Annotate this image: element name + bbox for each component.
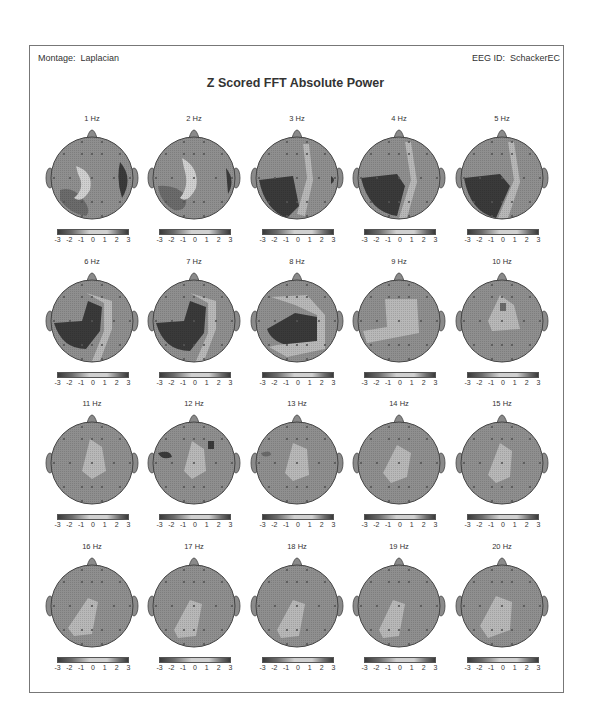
colorbar-ticks: -3-2-10123 — [462, 664, 544, 671]
colorbar-tick-label: 0 — [189, 236, 200, 243]
colorbar-tick-label: -3 — [359, 521, 370, 528]
colorbar-tick-label: 3 — [328, 664, 339, 671]
colorbar-tick-label: -3 — [257, 236, 268, 243]
head-topomap-icon — [247, 265, 347, 371]
colorbar-tick-label: -2 — [474, 236, 485, 243]
colorbar-tick-label: 2 — [521, 379, 532, 386]
colorbar-tick-label: 1 — [304, 521, 315, 528]
colorbar-tick-label: 2 — [213, 379, 224, 386]
colorbar-ticks: -3-2-10123 — [154, 521, 236, 528]
colorbar — [467, 229, 539, 235]
colorbar-ticks: -3-2-10123 — [462, 521, 544, 528]
colorbar — [364, 657, 436, 663]
colorbar-tick-label: 3 — [123, 379, 134, 386]
colorbar-tick-label: -2 — [371, 379, 382, 386]
head-topomap-icon — [349, 265, 449, 371]
colorbar — [364, 372, 436, 378]
topomap-4: 4 Hz-3-2-10123 — [349, 114, 449, 254]
colorbar-tick-label: 1 — [509, 521, 520, 528]
colorbar-ticks: -3-2-10123 — [359, 521, 441, 528]
colorbar-tick-label: -2 — [371, 521, 382, 528]
colorbar-tick-label: 2 — [316, 521, 327, 528]
topomap-16: 16 Hz-3-2-10123 — [42, 542, 142, 682]
colorbar-tick-label: 2 — [111, 379, 122, 386]
colorbar-tick-label: 0 — [87, 521, 98, 528]
colorbar-tick-label: 2 — [213, 521, 224, 528]
colorbar-tick-label: 0 — [189, 379, 200, 386]
colorbar — [57, 657, 129, 663]
colorbar-tick-label: -1 — [76, 664, 87, 671]
colorbar-tick-label: -3 — [154, 664, 165, 671]
colorbar-tick-label: -2 — [371, 664, 382, 671]
topomap-8: 8 Hz-3-2-10123 — [247, 257, 347, 397]
colorbar — [467, 372, 539, 378]
colorbar-tick-label: 0 — [292, 379, 303, 386]
montage-label: Montage: — [38, 53, 76, 63]
colorbar-tick-label: -3 — [359, 379, 370, 386]
colorbar-tick-label: -2 — [64, 664, 75, 671]
colorbar — [57, 229, 129, 235]
colorbar-tick-label: 0 — [394, 521, 405, 528]
colorbar-tick-label: -1 — [281, 236, 292, 243]
head-topomap-icon — [144, 122, 244, 228]
colorbar — [262, 657, 334, 663]
colorbar-tick-label: 0 — [497, 521, 508, 528]
head-topomap-icon — [349, 122, 449, 228]
colorbar-tick-label: 1 — [509, 236, 520, 243]
colorbar-tick-label: -1 — [486, 379, 497, 386]
colorbar-tick-label: 0 — [394, 379, 405, 386]
head-topomap-icon — [42, 550, 142, 656]
colorbar-tick-label: 3 — [533, 664, 544, 671]
colorbar-tick-label: 3 — [225, 236, 236, 243]
colorbar — [57, 372, 129, 378]
colorbar-tick-label: 3 — [533, 521, 544, 528]
colorbar-tick-label: -3 — [462, 521, 473, 528]
colorbar-tick-label: -3 — [359, 664, 370, 671]
colorbar-tick-label: 3 — [225, 664, 236, 671]
colorbar-tick-label: -3 — [359, 236, 370, 243]
topomap-13: 13 Hz-3-2-10123 — [247, 399, 347, 539]
colorbar-tick-label: -1 — [383, 236, 394, 243]
colorbar-tick-label: -1 — [486, 236, 497, 243]
colorbar-tick-label: 2 — [316, 664, 327, 671]
eeg-id-value: SchackerEC — [510, 53, 560, 63]
head-topomap-icon — [42, 265, 142, 371]
head-topomap-icon — [42, 122, 142, 228]
colorbar-tick-label: 0 — [292, 664, 303, 671]
topomap-2: 2 Hz-3-2-10123 — [144, 114, 244, 254]
colorbar-tick-label: 3 — [123, 521, 134, 528]
colorbar-tick-label: 1 — [406, 379, 417, 386]
head-topomap-icon — [452, 122, 552, 228]
head-topomap-icon — [247, 407, 347, 513]
topomap-10: 10 Hz-3-2-10123 — [452, 257, 552, 397]
colorbar-ticks: -3-2-10123 — [359, 379, 441, 386]
colorbar-tick-label: 1 — [201, 664, 212, 671]
colorbar-tick-label: 0 — [394, 664, 405, 671]
colorbar-tick-label: -3 — [257, 521, 268, 528]
colorbar-tick-label: 1 — [406, 664, 417, 671]
colorbar-tick-label: -1 — [486, 664, 497, 671]
colorbar-tick-label: -1 — [178, 664, 189, 671]
colorbar-tick-label: 3 — [430, 521, 441, 528]
colorbar-tick-label: -2 — [64, 379, 75, 386]
colorbar-tick-label: -3 — [257, 664, 268, 671]
colorbar-ticks: -3-2-10123 — [257, 521, 339, 528]
colorbar-tick-label: 2 — [418, 379, 429, 386]
colorbar-ticks: -3-2-10123 — [257, 664, 339, 671]
colorbar-tick-label: 3 — [225, 521, 236, 528]
montage-value: Laplacian — [81, 53, 120, 63]
colorbar-tick-label: -2 — [269, 664, 280, 671]
chart-title: Z Scored FFT Absolute Power — [0, 76, 591, 90]
colorbar-tick-label: -2 — [64, 236, 75, 243]
colorbar-ticks: -3-2-10123 — [52, 379, 134, 386]
topomap-15: 15 Hz-3-2-10123 — [452, 399, 552, 539]
colorbar — [467, 514, 539, 520]
colorbar-tick-label: -1 — [281, 664, 292, 671]
colorbar-tick-label: 1 — [99, 236, 110, 243]
colorbar-tick-label: -3 — [52, 521, 63, 528]
head-topomap-icon — [144, 550, 244, 656]
topomap-11: 11 Hz-3-2-10123 — [42, 399, 142, 539]
colorbar-tick-label: -1 — [486, 521, 497, 528]
topomap-7: 7 Hz-3-2-10123 — [144, 257, 244, 397]
colorbar-tick-label: 3 — [533, 379, 544, 386]
